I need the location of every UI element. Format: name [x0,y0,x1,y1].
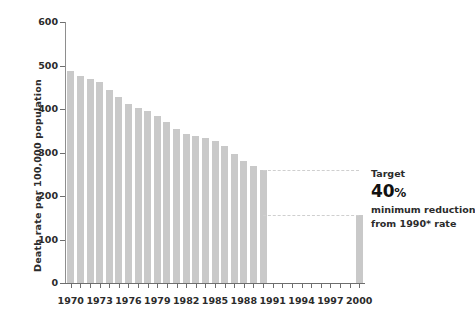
x-axis-tick-label: 2000 [344,296,374,306]
bar [183,134,190,283]
bar [135,108,142,283]
y-axis-tick-label: 100 [24,235,58,245]
x-axis-tick [128,284,129,288]
x-axis-tick-label: 1991 [258,296,288,306]
y-axis-tick-label: 0 [24,278,58,288]
target-annotation-title: Target [371,168,475,180]
bar [202,138,209,283]
plot-area [65,22,365,283]
x-axis-tick [205,284,206,288]
y-axis-tick-label-wrap: 300 [18,148,58,158]
y-axis-tick-label-wrap: 500 [18,61,58,71]
bar [240,161,247,283]
x-axis-tick [119,284,120,288]
y-axis-tick-label-wrap: 0 [18,278,58,288]
x-axis-tick [90,284,91,288]
x-axis-tick [302,284,303,288]
y-axis-title: Death rate per 100,000 population [32,61,43,291]
x-axis-tick-label: 1970 [56,296,86,306]
target-guide-lower [263,215,359,216]
bar [231,154,238,283]
bar [144,111,151,283]
bar [221,146,228,283]
x-axis-tick [330,284,331,288]
target-value-number: 40 [371,181,394,201]
y-axis-tick-label: 600 [24,17,58,27]
x-axis-tick [350,284,351,288]
bar [106,90,113,283]
x-axis-tick [263,284,264,288]
x-axis-tick [167,284,168,288]
bar [212,141,219,283]
x-axis-tick-label: 1976 [113,296,143,306]
target-annotation-line2: from 1990* rate [371,217,475,231]
target-annotation-line1: minimum reduction [371,203,475,217]
x-axis-tick [321,284,322,288]
bar [67,71,74,283]
x-axis-tick [100,284,101,288]
x-axis-tick [340,284,341,288]
bar [192,136,199,283]
y-axis-tick-label-wrap: 600 [18,17,58,27]
x-axis-tick [196,284,197,288]
y-axis-tick-label: 500 [24,61,58,71]
x-axis-tick [225,284,226,288]
bar [87,79,94,283]
y-axis-tick-label: 200 [24,191,58,201]
x-axis-tick [253,284,254,288]
x-axis-tick [80,284,81,288]
x-axis-tick-label: 1979 [142,296,172,306]
x-axis-tick [234,284,235,288]
target-value-unit: % [394,186,406,200]
x-axis-tick-label: 1997 [315,296,345,306]
bar [115,97,122,283]
y-axis-tick-label-wrap: 400 [18,104,58,114]
bar [163,122,170,283]
x-axis-tick-label: 1973 [85,296,115,306]
x-axis-tick-label: 1994 [287,296,317,306]
bar [154,116,161,283]
x-axis-tick [273,284,274,288]
x-axis-tick [311,284,312,288]
bar [173,129,180,283]
y-axis-tick-label-wrap: 200 [18,191,58,201]
bar [356,215,363,283]
x-axis-tick-label: 1988 [229,296,259,306]
target-annotation: Target 40% minimum reduction from 1990* … [371,168,475,230]
target-guide-upper [263,170,359,171]
x-axis-tick [292,284,293,288]
x-axis-tick [138,284,139,288]
y-axis-tick [60,283,65,284]
bar-chart: Death rate per 100,000 population 600500… [0,0,475,330]
x-axis-tick-label: 1985 [200,296,230,306]
y-axis-tick-label: 300 [24,148,58,158]
x-axis-tick [109,284,110,288]
target-annotation-value: 40% [371,180,475,203]
x-axis-tick [215,284,216,288]
x-axis-tick [282,284,283,288]
x-axis-tick [244,284,245,288]
x-axis-tick [186,284,187,288]
bar [77,76,84,283]
y-axis-tick-label: 400 [24,104,58,114]
x-axis-tick [157,284,158,288]
bar [125,104,132,283]
y-axis-tick-label-wrap: 100 [18,235,58,245]
x-axis-tick [177,284,178,288]
x-axis-tick [359,284,360,288]
x-axis-tick [71,284,72,288]
bar [250,166,257,283]
bar [260,170,267,283]
bar [96,82,103,283]
x-axis-tick [148,284,149,288]
x-axis-tick-label: 1982 [171,296,201,306]
